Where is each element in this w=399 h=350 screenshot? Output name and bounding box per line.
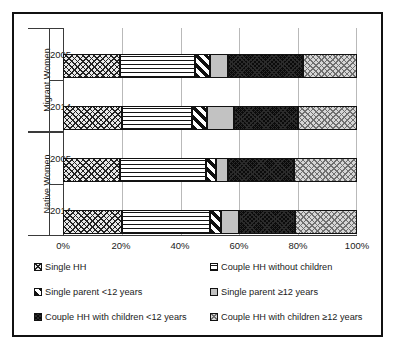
bar-segment bbox=[122, 106, 193, 130]
legend-label-single-parent-ge12: Single parent ≥12 years bbox=[221, 287, 318, 297]
legend-item-single-parent-lt12: Single parent <12 years bbox=[34, 287, 142, 297]
bar-segment bbox=[234, 106, 299, 130]
bar-segment bbox=[303, 54, 357, 78]
bar-segment bbox=[120, 158, 206, 182]
plot-inner bbox=[63, 28, 357, 236]
x-tick-20: 20% bbox=[111, 240, 130, 251]
x-tick-40: 40% bbox=[170, 240, 189, 251]
y-tick-sep-1 bbox=[50, 80, 64, 81]
x-tick-0: 0% bbox=[56, 240, 70, 251]
bar-segment bbox=[192, 106, 207, 130]
bar-segment bbox=[210, 210, 221, 234]
legend-label-single-parent-lt12: Single parent <12 years bbox=[45, 287, 142, 297]
chart-legend: Single HH Couple HH without children Sin… bbox=[34, 262, 370, 324]
bar-native-2005 bbox=[63, 158, 357, 182]
axis-x-line bbox=[63, 235, 357, 236]
bar-segment bbox=[63, 158, 120, 182]
legend-swatch-single-hh-icon bbox=[34, 263, 42, 271]
bar-segment bbox=[206, 158, 215, 182]
bar-segment bbox=[221, 210, 240, 234]
y-tick-sep-2 bbox=[50, 184, 64, 185]
legend-swatch-single-parent-ge12-icon bbox=[210, 288, 218, 296]
x-tick-80: 80% bbox=[288, 240, 307, 251]
x-tick-100: 100% bbox=[345, 240, 369, 251]
bar-segment bbox=[295, 210, 357, 234]
legend-label-single-hh: Single HH bbox=[45, 262, 86, 272]
plot-area bbox=[63, 28, 357, 236]
legend-label-couple-no-children: Couple HH without children bbox=[221, 262, 332, 272]
bar-migrant-2005 bbox=[63, 54, 357, 78]
bar-segment bbox=[63, 210, 122, 234]
legend-label-couple-children-lt12: Couple HH with children <12 years bbox=[45, 312, 187, 322]
legend-swatch-couple-children-ge12-icon bbox=[210, 313, 218, 321]
bar-segment bbox=[120, 54, 195, 78]
bar-segment bbox=[228, 158, 294, 182]
chart-frame: Migrant Women Native Women 2005 2014 200… bbox=[12, 12, 383, 337]
legend-item-single-hh: Single HH bbox=[34, 262, 86, 272]
bar-segment bbox=[294, 158, 357, 182]
legend-item-couple-children-lt12: Couple HH with children <12 years bbox=[34, 312, 187, 322]
legend-swatch-single-parent-lt12-icon bbox=[34, 288, 42, 296]
bar-segment bbox=[239, 210, 295, 234]
legend-swatch-couple-children-lt12-icon bbox=[34, 313, 42, 321]
bar-segment bbox=[216, 158, 228, 182]
bar-segment bbox=[63, 106, 122, 130]
x-tick-60: 60% bbox=[229, 240, 248, 251]
bar-segment bbox=[63, 54, 120, 78]
legend-item-couple-no-children: Couple HH without children bbox=[210, 262, 332, 272]
bar-segment bbox=[207, 106, 233, 130]
bar-segment bbox=[298, 106, 357, 130]
legend-label-couple-children-ge12: Couple HH with children ≥12 years bbox=[221, 312, 362, 322]
bar-segment bbox=[195, 54, 210, 78]
bar-migrant-2014 bbox=[63, 106, 357, 130]
legend-swatch-couple-no-children-icon bbox=[210, 263, 218, 271]
bar-segment bbox=[122, 210, 210, 234]
legend-item-couple-children-ge12: Couple HH with children ≥12 years bbox=[210, 312, 362, 322]
bar-segment bbox=[228, 54, 303, 78]
bar-segment bbox=[210, 54, 228, 78]
legend-item-single-parent-ge12: Single parent ≥12 years bbox=[210, 287, 318, 297]
bar-native-2014 bbox=[63, 210, 357, 234]
